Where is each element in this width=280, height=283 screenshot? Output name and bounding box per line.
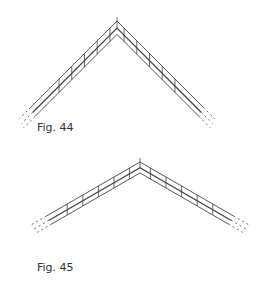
rail-dashed-extension [19,107,30,118]
rail-line [35,34,199,116]
rail-dashed-extension [203,107,214,118]
rail-dashed-extension [31,216,47,225]
rail-line [49,168,231,221]
figure-45-chevron [31,158,249,233]
figure-44-chevron [19,17,214,128]
rail-line [33,28,201,112]
rail-line [46,162,233,216]
rail-dashed-extension [36,224,52,233]
figure-44-caption: Fig. 44 [37,121,74,134]
rail-dashed-extension [33,220,49,229]
rail-dashed-extension [201,112,212,123]
rail-dashed-extension [228,224,244,233]
rail-dashed-extension [199,116,210,127]
rail-line [52,173,229,224]
figure-45-caption: Fig. 45 [37,261,74,274]
rail-dashed-extension [231,220,247,229]
rail-dashed-extension [234,216,250,225]
rail-dashed-extension [24,116,35,127]
diagram-canvas [0,0,280,283]
rail-dashed-extension [22,112,33,123]
